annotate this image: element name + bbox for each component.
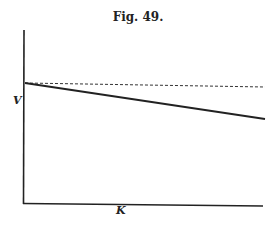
- dashed-line: [25, 83, 265, 87]
- diagram: [0, 0, 276, 225]
- y-axis: [24, 30, 25, 204]
- x-axis-label: K: [116, 204, 126, 217]
- solid-line: [25, 83, 265, 119]
- y-axis-label: V: [13, 94, 22, 107]
- x-axis: [23, 204, 263, 207]
